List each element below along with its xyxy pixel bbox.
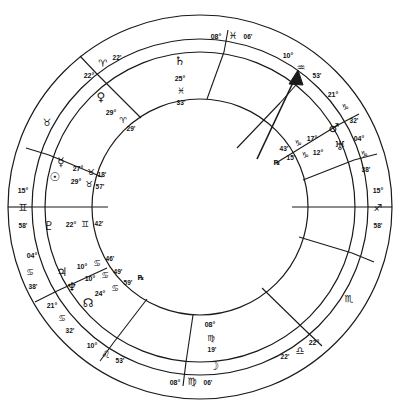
cusp-label-mc-minute: 06'	[244, 34, 253, 41]
moon-degree: 08°	[205, 321, 216, 328]
tick-8	[26, 148, 49, 155]
sun-degree: 29°	[71, 178, 82, 185]
cusp-line-5	[114, 299, 147, 342]
mars-sign-glyph: ♑	[294, 139, 302, 148]
tick-2	[352, 253, 374, 262]
cusp-line-12	[303, 160, 354, 180]
cusp-label-6-degree: 21°	[47, 302, 58, 309]
saturn-minute: 33'	[177, 100, 186, 107]
venus-degree: 29°	[106, 109, 117, 116]
mars-degree: 17°	[307, 135, 318, 142]
gemini-glyph-asc: ♊	[19, 203, 28, 213]
jupiter-degree: 10°	[77, 263, 88, 270]
pluto-degree: 22°	[66, 221, 77, 228]
cusp-line-3	[262, 288, 305, 330]
ascendant-degree: 15°	[18, 187, 29, 194]
virgo-glyph-ic: ♍	[188, 377, 197, 387]
cusp-label-9-degree: 22°	[84, 72, 95, 79]
cusp-label-ic-minute: 06'	[204, 380, 213, 387]
uranus-glyph: ♅	[335, 140, 346, 152]
pisces-glyph-mc: ♓	[229, 31, 238, 41]
cusp-label-12-degree: 21°	[328, 91, 339, 98]
cusp-label-9-minute: 22'	[113, 55, 122, 62]
mercury-minute: 18'	[98, 172, 107, 179]
taurus-glyph: ♉	[43, 118, 52, 128]
capricorn-glyph-12: ♑	[341, 103, 349, 112]
uranus-minute: 15'	[287, 155, 296, 162]
cusp-label-2-degree: 04°	[354, 135, 365, 142]
cusp-label-3-degree: 22°	[309, 339, 320, 346]
cusp-label-6-minute: 32'	[66, 328, 75, 335]
neptune-sign-glyph: ♋	[101, 271, 109, 280]
uranus-degree: 12°	[313, 149, 324, 156]
jupiter-minute: 46'	[106, 256, 115, 263]
jupiter-sign-glyph: ♋	[93, 259, 101, 268]
north-node-degree: 24°	[95, 290, 106, 297]
sagittarius-glyph-dsc: ♐	[374, 203, 383, 213]
cusp-label-12-minute: 32'	[350, 118, 359, 125]
pluto-sign-glyph: ♊	[81, 220, 89, 229]
venus-minute: 29'	[127, 126, 136, 133]
aries-glyph: ♈	[99, 59, 108, 69]
cusp-label-3-minute: 22'	[281, 354, 290, 361]
neptune-minute: 49'	[114, 269, 123, 276]
jupiter-glyph: ♃	[57, 266, 68, 278]
mars-glyph: ♂	[329, 122, 340, 134]
north-node-glyph: ☊	[83, 297, 94, 309]
cusp-line-mc-spoke	[207, 52, 224, 99]
north-node-retrograde-icon: ℞	[138, 275, 144, 282]
saturn-sign-glyph: ♓	[177, 87, 185, 96]
pluto-glyph: ♇	[44, 220, 55, 232]
mars-minute: 43'	[280, 146, 289, 153]
uranus-retrograde-icon: ℞	[274, 160, 280, 167]
neptune-glyph: ♆	[67, 281, 78, 293]
aquarius-glyph: ♒	[297, 63, 306, 73]
tick-6	[35, 291, 57, 302]
north-node-sign-glyph: ♋	[111, 284, 119, 293]
cusp-label-mc-degree: 08°	[211, 33, 222, 40]
moon-sign-glyph: ♍	[207, 334, 215, 343]
uranus-sign-glyph: ♑	[301, 151, 309, 160]
cusp-line-2	[299, 237, 352, 253]
cusp-label-11-degree: 10°	[283, 52, 294, 59]
neptune-degree: 10°	[85, 275, 96, 282]
moon-glyph: ☽	[209, 360, 220, 372]
descendant-degree: 15°	[373, 187, 384, 194]
sun-glyph: ☉	[50, 171, 61, 183]
scorpio-glyph: ♏	[345, 294, 354, 304]
cusp-label-11-minute: 53'	[313, 73, 322, 80]
sun-sign-glyph: ♉	[85, 180, 93, 189]
chart-wheel-svg	[0, 0, 401, 412]
capricorn-glyph-2: ♑	[360, 150, 368, 159]
cusp-label-8-minute: 38'	[29, 284, 38, 291]
cusp-label-ic-degree: 08°	[170, 379, 181, 386]
venus-glyph: ♀	[97, 91, 106, 103]
mercury-glyph: ☿	[57, 156, 64, 168]
mercury-degree: 27°	[73, 165, 84, 172]
saturn-degree: 25°	[175, 75, 186, 82]
libra-glyph: ♎	[296, 346, 305, 356]
sun-minute: 57'	[96, 184, 105, 191]
astrology-chart-wheel: 08° ♓ 06' 10° ♒ 53' 21° ♑ 32' 04° ♑ 38' …	[0, 0, 401, 412]
cusp-label-8-degree: 04°	[27, 252, 38, 259]
moon-minute: 19'	[208, 347, 217, 354]
cusp-label-5-minute: 53'	[116, 358, 125, 365]
cusp-label-2-minute: 38'	[362, 167, 371, 174]
mercury-sign-glyph: ♉	[87, 168, 95, 177]
cancer-glyph-6: ♋	[58, 314, 66, 323]
cusp-label-5-degree: 10°	[87, 342, 98, 349]
descendant-minute: 58'	[374, 223, 383, 230]
north-node-minute: 59'	[124, 280, 133, 287]
saturn-glyph: ♄	[175, 55, 186, 67]
cancer-glyph-8: ♋	[26, 268, 34, 277]
leo-glyph: ♌	[102, 350, 111, 360]
ascendant-minute: 58'	[19, 223, 28, 230]
cusp-line-4	[186, 315, 193, 362]
venus-sign-glyph: ♈	[119, 116, 127, 125]
pluto-minute: 42'	[95, 221, 104, 228]
tick-9	[80, 56, 96, 73]
